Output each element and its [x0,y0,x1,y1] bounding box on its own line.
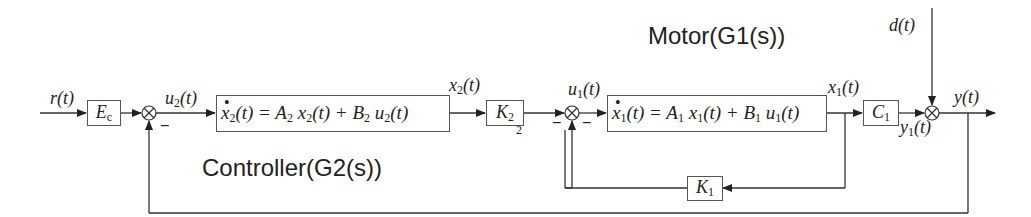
sum2-minus-left: − [552,114,561,132]
controller-title: Controller(G2(s)) [202,154,382,182]
eq2-ax-t: (t) + [312,102,352,123]
input-signal-label: r(t) [50,89,74,107]
eq1-a: A [666,102,678,123]
eq1-lhs-t: (t) = [626,102,666,123]
c1-main: C [872,102,884,122]
sum2-minus-right: − [582,114,591,132]
k1-main: K [696,177,708,197]
sum1-minus-sign: − [160,117,169,135]
u2-t: (t) [180,88,197,108]
eq2-a: A [275,102,287,123]
c1-output-block: C1 [863,100,899,126]
eq1-ax: x [684,102,697,123]
disturbance-label: d(t) [889,16,915,34]
eq1-b: B [743,102,755,123]
eq1-ax-t: (t) + [703,102,743,123]
ec-sub: c [107,110,112,124]
controller-state-equation-block: • x2(t) = A2 x2(t) + B2 u2(t) [216,95,450,132]
k2-stray-subscript: 2 [516,124,522,136]
k2-main: K [496,102,508,122]
eq2-ax: x [293,102,306,123]
derivative-dot: • [224,94,230,112]
x2-main: x [449,75,457,95]
ec-main: E [96,102,107,122]
eq2-b: B [352,102,364,123]
x1-t: (t) [842,77,859,97]
ec-label: Ec [96,102,112,125]
eq1-bu: u [761,102,775,123]
x1-signal-label: x1(t) [828,78,859,98]
motor-equation: • x1(t) = A1 x1(t) + B1 u1(t) [612,102,799,126]
y1-t: (t) [914,117,931,137]
eq2-bu-t: (t) [390,102,408,123]
k1-gain-block: K1 [687,176,723,201]
k2-sub: 2 [508,110,514,124]
y1-signal-label: y1(t) [900,118,931,138]
u2-signal-label: u2(t) [165,89,197,109]
x2-t: (t) [463,75,480,95]
x1-main: x [828,77,836,97]
motor-title: Motor(G1(s)) [648,22,785,50]
y1-main: y [900,117,908,137]
controller-equation: • x2(t) = A2 x2(t) + B2 u2(t) [221,102,408,126]
x2-signal-label: x2(t) [449,76,480,96]
u1-signal-label: u1(t) [568,80,600,100]
c1-sub: 1 [884,110,890,124]
motor-state-equation-block: • x1(t) = A1 x1(t) + B1 u1(t) [607,95,827,132]
u1-main: u [568,79,577,99]
derivative-dot: • [615,94,621,112]
c1-label: C1 [872,102,890,125]
u1-t: (t) [583,79,600,99]
eq1-bu-t: (t) [781,102,799,123]
eq2-bu: u [370,102,384,123]
ec-block: Ec [87,100,121,126]
k2-label: K2 [496,102,514,125]
eq2-lhs-t: (t) = [235,102,275,123]
u2-main: u [165,88,174,108]
k1-label: K1 [696,177,714,200]
k1-sub: 1 [708,185,714,199]
output-signal-label: y(t) [954,88,979,106]
